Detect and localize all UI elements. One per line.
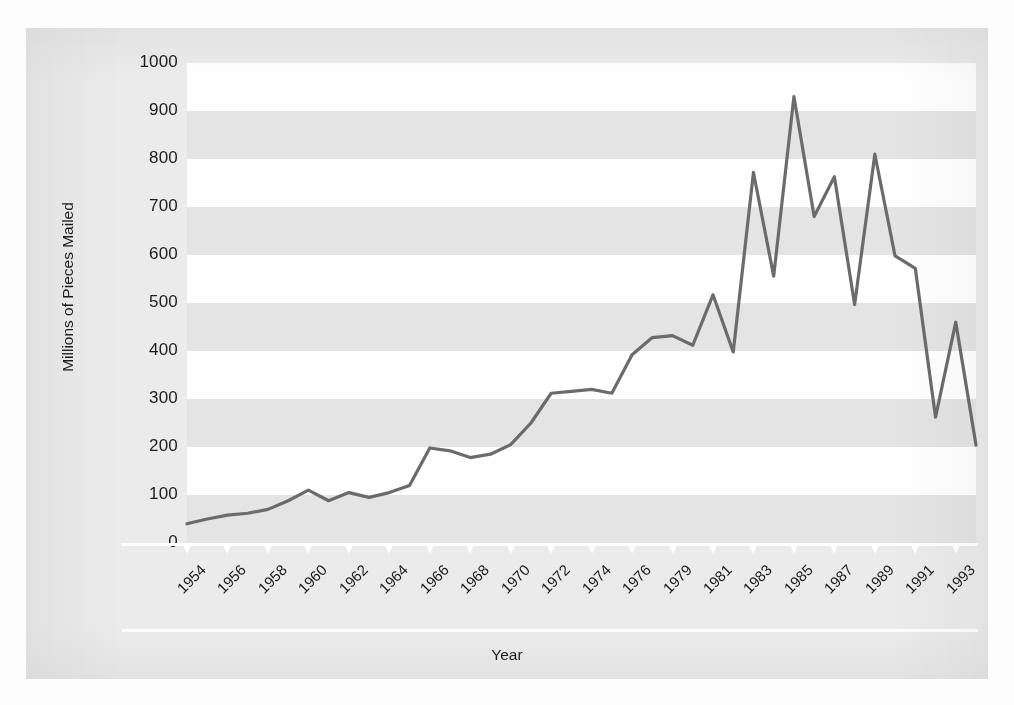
figure-root: 10009008007006005004003002001000 Million… xyxy=(0,0,1014,705)
x-tick-mark xyxy=(183,545,191,554)
chart-frame: 10009008007006005004003002001000 Million… xyxy=(26,28,988,679)
x-tick-mark xyxy=(223,545,231,554)
y-tick-label: 1000 xyxy=(139,52,178,72)
x-tick-mark xyxy=(304,545,312,554)
x-tick-mark xyxy=(345,545,353,554)
x-tick-mark xyxy=(507,545,515,554)
x-tick-label: 1985 xyxy=(780,561,816,597)
x-tick-label: 1960 xyxy=(295,561,331,597)
x-tick-label: 1976 xyxy=(618,561,654,597)
y-tick-label: 500 xyxy=(149,292,178,312)
x-tick-mark xyxy=(466,545,474,554)
x-tick-label: 1979 xyxy=(659,561,695,597)
x-tick-label: 1956 xyxy=(214,561,250,597)
x-tick-mark xyxy=(547,545,555,554)
x-tick-mark xyxy=(952,545,960,554)
x-tick-mark xyxy=(871,545,879,554)
x-tick-label: 1989 xyxy=(861,561,897,597)
y-tick-label: 600 xyxy=(149,244,178,264)
data-series-line xyxy=(187,97,976,524)
x-tick-label: 1993 xyxy=(942,561,978,597)
x-tick-label: 1964 xyxy=(376,561,412,597)
plot-area xyxy=(187,63,976,543)
x-tick-label: 1987 xyxy=(821,561,857,597)
x-tick-label: 1974 xyxy=(578,561,614,597)
x-tick-mark xyxy=(790,545,798,554)
x-tick-mark xyxy=(709,545,717,554)
x-tick-label: 1966 xyxy=(416,561,452,597)
x-tick-label: 1970 xyxy=(497,561,533,597)
y-axis-title: Millions of Pieces Mailed xyxy=(59,157,77,417)
x-tick-mark xyxy=(749,545,757,554)
x-tick-mark xyxy=(669,545,677,554)
x-tick-label: 1972 xyxy=(538,561,574,597)
x-tick-mark xyxy=(426,545,434,554)
x-tick-mark xyxy=(911,545,919,554)
y-tick-label: 300 xyxy=(149,388,178,408)
x-tick-mark xyxy=(628,545,636,554)
y-tick-label: 800 xyxy=(149,148,178,168)
x-tick-mark xyxy=(385,545,393,554)
y-tick-label: 400 xyxy=(149,340,178,360)
y-axis-tick-labels: 10009008007006005004003002001000 xyxy=(96,28,178,679)
x-tick-label: 1991 xyxy=(902,561,938,597)
y-tick-label: 900 xyxy=(149,100,178,120)
y-tick-label: 700 xyxy=(149,196,178,216)
x-tick-mark xyxy=(830,545,838,554)
x-tick-mark xyxy=(264,545,272,554)
x-tick-label: 1962 xyxy=(335,561,371,597)
x-tick-label: 1954 xyxy=(173,561,209,597)
y-tick-label: 200 xyxy=(149,436,178,456)
x-tick-label: 1958 xyxy=(254,561,290,597)
x-axis-separator xyxy=(122,629,978,632)
x-tick-label: 1983 xyxy=(740,561,776,597)
x-tick-mark xyxy=(588,545,596,554)
data-line-chart xyxy=(187,63,976,543)
y-tick-label: 100 xyxy=(149,484,178,504)
y-tick-label: 0 xyxy=(168,532,178,552)
x-tick-label: 1981 xyxy=(699,561,735,597)
x-axis-title: Year xyxy=(26,646,988,664)
x-tick-label: 1968 xyxy=(457,561,493,597)
